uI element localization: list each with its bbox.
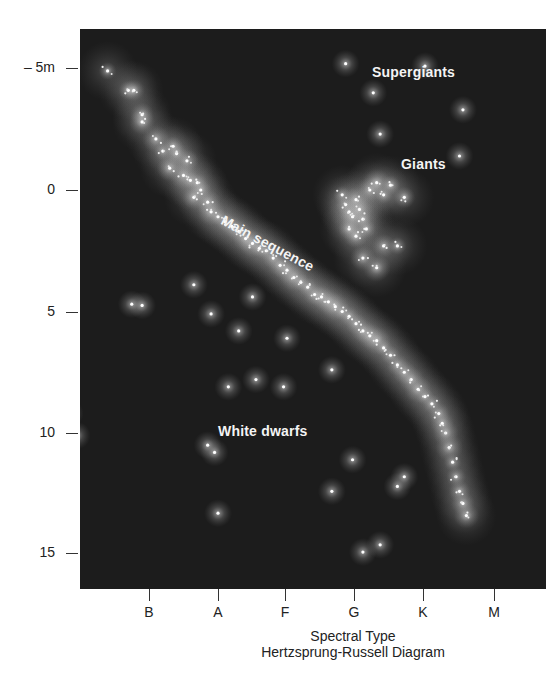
y-tick-mark xyxy=(66,68,78,69)
y-tick-label: – 5m xyxy=(5,59,55,75)
y-tick-mark xyxy=(66,190,78,191)
x-tick-label: G xyxy=(339,604,369,620)
y-tick-mark xyxy=(66,312,78,313)
label-supergiants: Supergiants xyxy=(372,64,455,80)
x-tick-mark xyxy=(285,589,286,601)
x-tick-label: B xyxy=(134,604,164,620)
y-tick-label: 0 xyxy=(5,181,55,197)
x-tick-label: A xyxy=(203,604,233,620)
x-tick-mark xyxy=(494,589,495,601)
x-tick-mark xyxy=(354,589,355,601)
star-field xyxy=(80,29,546,589)
nebula-glow-layer xyxy=(80,41,496,566)
y-tick-label: 5 xyxy=(5,303,55,319)
chart-title: Hertzsprung-Russell Diagram xyxy=(200,644,506,660)
y-tick-label: 10 xyxy=(5,424,55,440)
label-white-dwarfs: White dwarfs xyxy=(218,423,308,439)
label-giants: Giants xyxy=(401,156,446,172)
x-tick-mark xyxy=(149,589,150,601)
y-tick-mark xyxy=(66,553,78,554)
x-tick-label: K xyxy=(408,604,438,620)
x-tick-mark xyxy=(218,589,219,601)
x-axis-label: Spectral Type xyxy=(200,628,506,644)
plot-area: Supergiants Giants Main sequence White d… xyxy=(80,29,546,589)
y-tick-label: 15 xyxy=(5,544,55,560)
x-tick-label: M xyxy=(479,604,509,620)
x-tick-label: F xyxy=(270,604,300,620)
x-tick-mark xyxy=(423,589,424,601)
y-tick-mark xyxy=(66,433,78,434)
